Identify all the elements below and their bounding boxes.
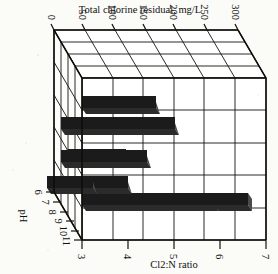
ratio-axis: 3 4 5 6 7 Cl2:N ratio bbox=[76, 240, 271, 270]
bar bbox=[82, 193, 252, 211]
value-tick-300: 300 bbox=[230, 4, 241, 20]
ratio-tick-3: 3 bbox=[76, 254, 87, 259]
bar bbox=[82, 96, 160, 114]
value-tick-0: 0 bbox=[46, 15, 57, 20]
left-wall bbox=[54, 30, 266, 78]
chart-figure: 300 250 200 150 100 50 0 Total chlorine … bbox=[0, 0, 278, 274]
rotated-chart-container: 300 250 200 150 100 50 0 Total chlorine … bbox=[0, 0, 278, 274]
ph-tick-9: 9 bbox=[53, 218, 64, 223]
chart-svg: 300 250 200 150 100 50 0 Total chlorine … bbox=[0, 0, 278, 274]
ph-axis-title: pH bbox=[18, 210, 29, 223]
value-axis-title: Total chlorine residual, mg/L bbox=[79, 4, 201, 15]
value-axis: 300 250 200 150 100 50 0 Total chlorine … bbox=[46, 4, 241, 30]
ratio-tick-7: 7 bbox=[260, 254, 271, 259]
ph-tick-11: 11 bbox=[61, 236, 72, 246]
ratio-axis-title: Cl2:N ratio bbox=[150, 259, 198, 270]
ph-tick-10: 10 bbox=[58, 226, 69, 237]
bar bbox=[61, 150, 151, 168]
ph-tick-6: 6 bbox=[33, 189, 44, 194]
ratio-tick-6: 6 bbox=[214, 254, 225, 259]
ratio-tick-4: 4 bbox=[122, 254, 133, 260]
bar bbox=[61, 117, 179, 135]
ph-tick-7: 7 bbox=[40, 199, 51, 204]
ph-tick-8: 8 bbox=[47, 209, 58, 214]
